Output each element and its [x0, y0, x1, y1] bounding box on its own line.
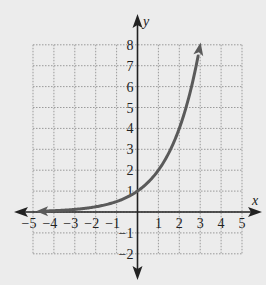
- y-tick-label: −2: [119, 247, 134, 262]
- x-tick-label: −3: [63, 216, 78, 231]
- x-tick-label: 3: [197, 216, 204, 231]
- y-tick-label: −1: [119, 226, 134, 241]
- x-tick-label: 5: [239, 216, 246, 231]
- x-tick-label: 1: [155, 216, 162, 231]
- y-tick-label: 5: [127, 101, 134, 116]
- y-tick-label: 4: [127, 121, 134, 136]
- y-tick-label: 6: [127, 80, 134, 95]
- y-tick-label: 3: [127, 142, 134, 157]
- exponential-graph: −5−4−3−2−11234587654321−1−2 x y: [0, 0, 266, 285]
- y-tick-label: 8: [127, 38, 134, 53]
- axes: [14, 14, 262, 280]
- exponential-curve: [36, 42, 203, 216]
- x-axis-label: x: [251, 193, 259, 208]
- x-tick-label: 4: [218, 216, 225, 231]
- y-tick-label: 7: [127, 59, 134, 74]
- x-tick-label: −5: [22, 216, 37, 231]
- y-tick-label: 2: [127, 163, 134, 178]
- x-tick-label: −2: [84, 216, 99, 231]
- y-axis-label: y: [141, 14, 150, 29]
- x-tick-label: 2: [176, 216, 183, 231]
- x-tick-label: −4: [42, 216, 57, 231]
